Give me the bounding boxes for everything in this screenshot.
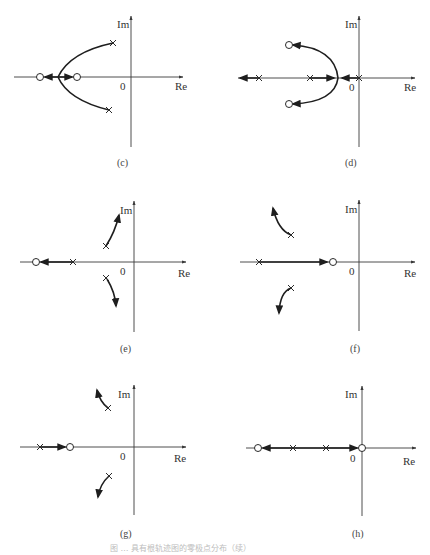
panel-label: (c) xyxy=(117,157,128,169)
root-locus-figure: Im 0 Re (c) Im 0 Re (d) Im 0 R xyxy=(0,0,430,555)
real-axis-label: Re xyxy=(174,452,186,464)
panel-c: Im 0 Re (c) xyxy=(14,16,187,169)
zero-marker xyxy=(359,445,366,452)
real-axis-label: Re xyxy=(404,267,416,279)
panel-label: (g) xyxy=(120,528,132,540)
imag-axis-label: Im xyxy=(118,388,131,400)
origin-label: 0 xyxy=(120,265,126,277)
origin-label: 0 xyxy=(349,265,355,277)
zero-marker xyxy=(255,445,262,452)
origin-label: 0 xyxy=(349,81,355,93)
locus-branch-upper xyxy=(293,45,338,78)
zero-marker xyxy=(67,444,74,451)
real-axis-label: Re xyxy=(403,455,415,467)
locus-branch-upper xyxy=(97,390,108,408)
real-axis-label: Re xyxy=(178,267,190,279)
zero-marker xyxy=(74,74,81,81)
locus-branch-upper xyxy=(273,208,291,235)
panel-label: (h) xyxy=(352,528,364,540)
pole-marker xyxy=(105,405,111,411)
zero-marker xyxy=(37,74,44,81)
imag-axis-label: Im xyxy=(345,388,358,400)
figure-caption: 图 … 具有根轨迹图的零极点分布（续） xyxy=(110,543,251,553)
pole-marker xyxy=(103,275,109,281)
zero-marker xyxy=(286,101,293,108)
locus-branch-lower xyxy=(98,476,109,497)
imag-axis-label: Im xyxy=(345,203,358,215)
panel-label: (e) xyxy=(120,343,131,355)
zero-marker xyxy=(330,259,337,266)
origin-label: 0 xyxy=(350,452,356,464)
zero-marker xyxy=(286,42,293,49)
panel-label: (d) xyxy=(345,157,357,169)
locus-branch-lower xyxy=(293,78,338,104)
pole-marker xyxy=(288,285,294,291)
imag-axis-label: Im xyxy=(120,204,133,216)
panel-e: Im 0 Re (e) xyxy=(20,201,190,355)
panel-g: Im 0 Re (g) xyxy=(20,385,186,540)
locus-branch-upper xyxy=(106,215,119,246)
imag-axis-label: Im xyxy=(117,18,130,30)
pole-marker xyxy=(103,243,109,249)
origin-label: 0 xyxy=(120,450,126,462)
pole-marker xyxy=(106,473,112,479)
imag-axis-label: Im xyxy=(345,18,358,30)
panel-h: Im 0 Re (h) xyxy=(246,386,416,540)
zero-marker xyxy=(33,259,40,266)
locus-branch-lower xyxy=(279,288,291,313)
locus-branch-lower xyxy=(107,279,116,306)
locus-branch-upper xyxy=(58,43,113,77)
panel-f: Im 0 Re (f) xyxy=(240,200,416,355)
panel-label: (f) xyxy=(350,343,360,355)
panel-d: Im 0 Re (d) xyxy=(238,16,416,169)
real-axis-label: Re xyxy=(404,81,416,93)
pole-marker xyxy=(288,232,294,238)
origin-label: 0 xyxy=(120,80,126,92)
locus-branch-lower xyxy=(58,77,109,110)
real-axis-label: Re xyxy=(175,80,187,92)
